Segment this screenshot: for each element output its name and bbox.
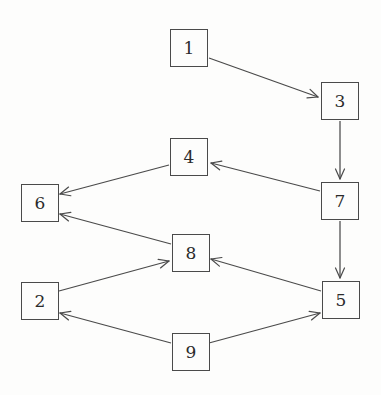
graph-node-label-7: 7 <box>335 193 346 210</box>
graph-node-1[interactable]: 1 <box>170 29 208 67</box>
graph-node-label-3: 3 <box>335 93 346 110</box>
graph-node-label-5: 5 <box>336 292 347 309</box>
graph-node-4[interactable]: 4 <box>170 138 208 176</box>
edge-9-to-2 <box>60 311 171 343</box>
edge-9-to-5 <box>209 311 320 343</box>
graph-node-3[interactable]: 3 <box>321 82 359 120</box>
graph-node-7[interactable]: 7 <box>321 182 359 220</box>
edge-3-to-7 <box>336 121 345 179</box>
graph-node-label-4: 4 <box>184 149 195 166</box>
graph-node-label-1: 1 <box>184 40 195 57</box>
graph-node-label-2: 2 <box>35 293 46 310</box>
edge-8-to-6 <box>60 212 171 244</box>
graph-node-9[interactable]: 9 <box>172 333 210 371</box>
edge-2-to-8 <box>59 259 169 291</box>
edge-7-to-5 <box>336 221 345 278</box>
graph-node-8[interactable]: 8 <box>172 234 210 272</box>
graph-node-2[interactable]: 2 <box>21 282 59 320</box>
graph-node-6[interactable]: 6 <box>21 184 59 222</box>
edge-4-to-6 <box>60 165 169 196</box>
edge-7-to-4 <box>211 161 320 191</box>
edge-1-to-3 <box>209 58 318 98</box>
graph-node-label-9: 9 <box>186 344 197 361</box>
diagram-canvas: 134768259 <box>0 0 381 395</box>
edge-5-to-8 <box>211 257 321 291</box>
graph-node-5[interactable]: 5 <box>322 281 360 319</box>
graph-node-label-8: 8 <box>186 245 197 262</box>
graph-node-label-6: 6 <box>35 195 46 212</box>
